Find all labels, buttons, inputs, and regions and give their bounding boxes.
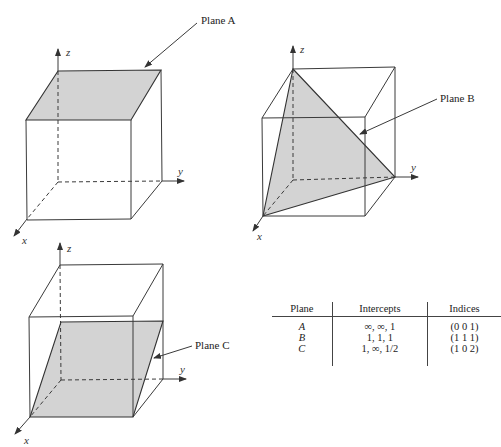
cell-plane: B <box>272 332 332 343</box>
plane-a-leader-arrow <box>145 23 197 67</box>
cube-c: z y x Plane C <box>15 242 230 446</box>
cell-indices: (1 0 2) <box>428 343 501 366</box>
cell-intercepts: ∞, ∞, 1 <box>332 317 427 333</box>
plane-b-leader-arrow <box>360 99 437 134</box>
cell-intercepts: 1, 1, 1 <box>332 332 427 343</box>
header-indices: Indices <box>428 302 501 317</box>
y-axis-label: y <box>179 363 185 375</box>
z-axis-label: z <box>66 242 72 254</box>
plane-a-shading <box>26 70 161 120</box>
table-row: A ∞, ∞, 1 (0 0 1) <box>272 317 501 333</box>
plane-a-label: Plane A <box>201 14 236 26</box>
plane-c-leader-arrow <box>154 346 192 358</box>
plane-b-label: Plane B <box>440 92 475 104</box>
cell-indices: (0 0 1) <box>428 317 501 333</box>
plane-c-shading <box>30 321 163 417</box>
header-plane: Plane <box>272 302 332 317</box>
miller-indices-table: Plane Intercepts Indices A ∞, ∞, 1 (0 0 … <box>272 302 501 366</box>
x-axis-arrow <box>15 417 30 434</box>
z-axis-label: z <box>299 43 305 55</box>
cube-b: z y x Plane B <box>253 43 475 242</box>
x-axis-label: x <box>21 234 27 246</box>
cell-indices: (1 1 1) <box>428 332 501 343</box>
x-axis-label: x <box>256 230 262 242</box>
table-header-row: Plane Intercepts Indices <box>272 302 501 317</box>
cell-intercepts: 1, ∞, 1/2 <box>332 343 427 366</box>
miller-indices-figure: z y x Plane A z y x Plane B <box>0 0 501 447</box>
y-axis-label: y <box>177 165 183 177</box>
cube-a: z y x Plane A <box>14 14 236 246</box>
x-axis-label: x <box>23 434 29 446</box>
cell-plane: C <box>272 343 332 366</box>
y-axis-label: y <box>410 161 416 173</box>
x-axis-arrow <box>253 216 263 231</box>
z-axis-label: z <box>65 46 71 58</box>
cell-plane: A <box>272 317 332 333</box>
table-row: B 1, 1, 1 (1 1 1) <box>272 332 501 343</box>
plane-c-label: Plane C <box>195 339 230 351</box>
table-row: C 1, ∞, 1/2 (1 0 2) <box>272 343 501 366</box>
header-intercepts: Intercepts <box>332 302 427 317</box>
plane-b-shading <box>263 69 395 216</box>
